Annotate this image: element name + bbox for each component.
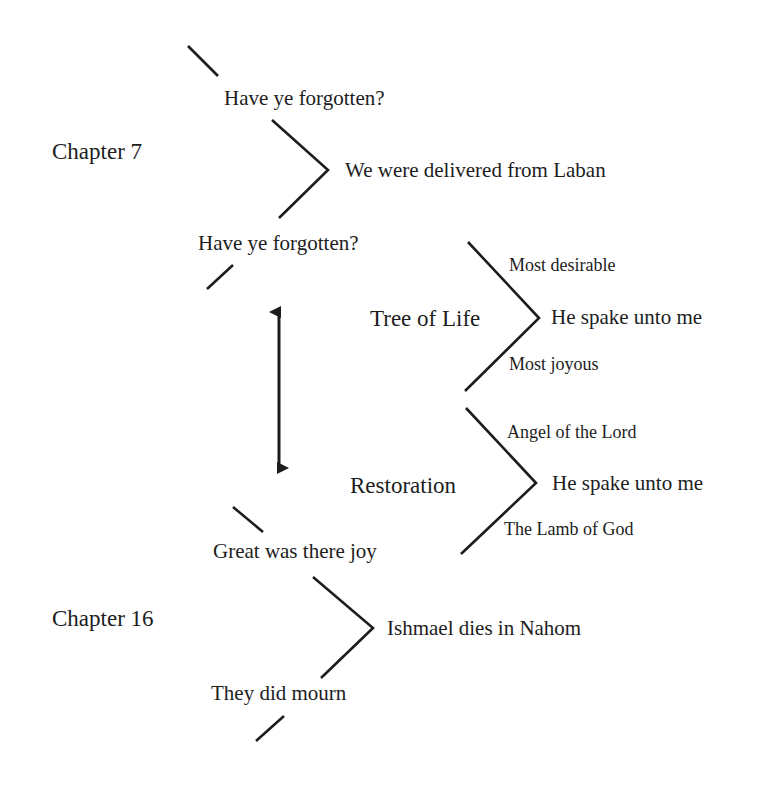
diagram-connectors-layer: [0, 0, 762, 785]
diagram-canvas: Chapter 7 Have ye forgotten? We were del…: [0, 0, 762, 785]
chevron-chapter-16-line: [313, 577, 373, 678]
label-have-ye-forgotten-bottom: Have ye forgotten?: [198, 233, 359, 254]
label-most-joyous: Most joyous: [509, 355, 599, 373]
chevron-chapter-7-line: [272, 120, 328, 218]
label-ishmael-dies-in-nahom: Ishmael dies in Nahom: [387, 618, 581, 639]
label-chapter-7: Chapter 7: [52, 140, 142, 163]
diagonal-stub-lower-middle-line: [233, 507, 263, 532]
label-they-did-mourn: They did mourn: [211, 683, 346, 704]
label-tree-he-spake-unto-me: He spake unto me: [551, 307, 702, 328]
label-chapter-16: Chapter 16: [52, 607, 154, 630]
diagonal-stub-upper-middle-line: [207, 265, 233, 289]
label-tree-of-life: Tree of Life: [370, 307, 480, 330]
label-restoration-he-spake-unto-me: He spake unto me: [552, 473, 703, 494]
diagonal-stub-bottom-line: [256, 716, 284, 741]
label-restoration: Restoration: [350, 474, 456, 497]
label-the-lamb-of-god: The Lamb of God: [504, 520, 633, 538]
label-great-was-there-joy: Great was there joy: [213, 541, 377, 562]
label-have-ye-forgotten-top: Have ye forgotten?: [224, 88, 385, 109]
label-angel-of-the-lord: Angel of the Lord: [507, 423, 636, 441]
diagonal-stub-top-line: [188, 46, 218, 76]
label-we-were-delivered-from-laban: We were delivered from Laban: [345, 160, 606, 181]
label-most-desirable: Most desirable: [509, 256, 615, 274]
